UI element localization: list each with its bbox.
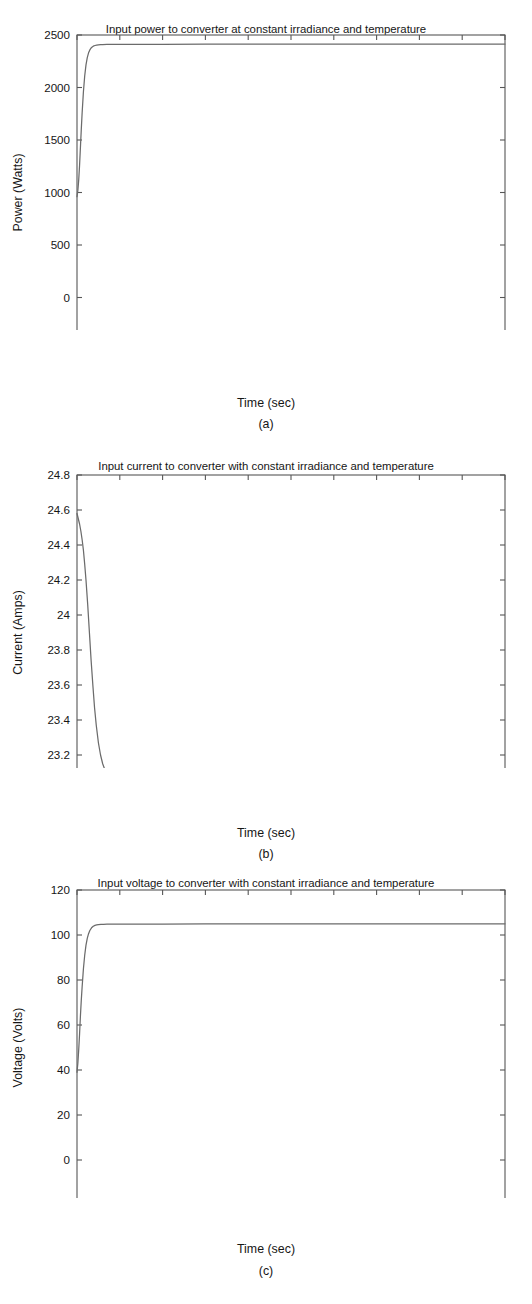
data-series-line: [77, 924, 505, 1072]
data-series-line: [77, 44, 505, 197]
y-tick-label: 1000: [44, 186, 70, 199]
y-tick-label: 24.8: [47, 468, 70, 481]
figure-page: Input power to converter at constant irr…: [0, 0, 532, 1304]
y-tick-label: 2000: [44, 81, 70, 94]
y-tick-label: 1500: [44, 133, 70, 146]
y-tick-label: 60: [57, 1018, 70, 1031]
plot-box: [77, 475, 505, 768]
y-tick-label: 100: [51, 928, 70, 941]
y-tick-label: 24: [57, 608, 70, 621]
panel-caption-a: (a): [0, 417, 532, 432]
y-axis-label: Power (Watts): [11, 153, 25, 231]
y-axis-label: Voltage (Volts): [11, 1008, 25, 1088]
plot-box: [77, 35, 505, 330]
panel-caption-b: (b): [0, 847, 532, 862]
chart-panel-c: Input voltage to converter with constant…: [0, 868, 532, 1304]
y-tick-label: 0: [64, 1153, 70, 1166]
chart-panel-a: Input power to converter at constant irr…: [0, 0, 532, 438]
y-tick-label: 23.8: [47, 643, 70, 656]
chart-panel-b: Input current to converter with constant…: [0, 438, 532, 868]
plot-box: [77, 890, 505, 1198]
y-tick-label: 24.6: [47, 503, 70, 516]
y-axis-label: Current (Amps): [11, 590, 25, 675]
plot-area-c: 00.10.20.30.40.50.60.70.80.91-2002040608…: [0, 868, 532, 1198]
plot-area-a: 00.10.20.30.40.50.60.70.80.91-5000500100…: [0, 0, 532, 330]
y-tick-label: 500: [51, 238, 70, 251]
y-tick-label: 23.4: [47, 713, 70, 726]
x-axis-label-c: Time (sec): [0, 1242, 532, 1257]
y-tick-label: 20: [57, 1108, 70, 1121]
y-tick-label: 120: [51, 883, 70, 896]
data-series-line: [77, 514, 505, 769]
y-tick-label: 80: [57, 973, 70, 986]
x-axis-label-b: Time (sec): [0, 826, 532, 841]
x-axis-label-a: Time (sec): [0, 396, 532, 411]
y-tick-label: 0: [64, 291, 70, 304]
y-tick-label: 23.2: [47, 748, 70, 761]
y-tick-label: 24.4: [47, 538, 70, 551]
plot-area-b: 00.10.20.30.40.50.60.70.80.912323.223.42…: [0, 438, 532, 768]
panel-caption-c: (c): [0, 1264, 532, 1279]
y-tick-label: 24.2: [47, 573, 70, 586]
y-tick-label: 40: [57, 1063, 70, 1076]
y-tick-label: 23.6: [47, 678, 70, 691]
y-tick-label: 2500: [44, 28, 70, 41]
